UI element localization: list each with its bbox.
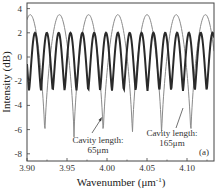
panel-label: (a) [199, 147, 209, 157]
x-tick-label: 4.00 [99, 163, 115, 173]
annotation-65um-line1: Cavity length: [72, 135, 123, 145]
annotation-arrow-65um [92, 119, 101, 133]
y-tick-label: -4 [15, 100, 23, 110]
annotation-65um: Cavity length: 65μm [72, 117, 123, 155]
y-tick-label: -2 [15, 76, 23, 86]
x-tick-label: 3.90 [19, 163, 35, 173]
x-tick-label: 4.10 [179, 163, 195, 173]
y-tick-label: 2 [18, 28, 23, 38]
x-tick-label: 3.95 [59, 163, 75, 173]
y-axis-ticks: -8-6-4-2024 [15, 4, 31, 159]
annotation-165um-line2: 165μm [159, 138, 184, 148]
y-tick-label: 0 [18, 52, 23, 62]
interference-spectrum-chart: 3.903.954.004.054.10 -8-6-4-2024 Wavenum… [0, 0, 219, 194]
y-tick-label: -8 [15, 149, 23, 159]
plot-area [27, 15, 214, 137]
annotation-165um-line1: Cavity length: [146, 128, 197, 138]
annotation-65um-line2: 65μm [88, 145, 109, 155]
annotation-arrow-165um [176, 108, 183, 128]
series-165um-curve [27, 33, 214, 91]
x-axis-title: Wavenumber (μm-1) [77, 176, 166, 189]
y-tick-label: 4 [18, 4, 23, 14]
arrowhead-icon [99, 117, 103, 122]
x-axis-ticks: 3.903.954.004.054.10 [19, 158, 207, 173]
y-axis-title: Intensity (dB) [0, 51, 13, 113]
series-65um-curve [27, 15, 214, 137]
x-tick-label: 4.05 [139, 163, 155, 173]
y-tick-label: -6 [15, 125, 23, 135]
